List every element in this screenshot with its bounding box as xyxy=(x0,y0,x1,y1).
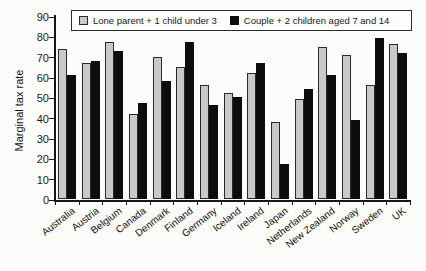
y-axis-tick xyxy=(49,98,54,99)
x-axis-tick xyxy=(268,201,269,205)
bar-belgium-series1 xyxy=(105,42,114,199)
y-axis-tick-label: 30 xyxy=(21,134,49,145)
y-axis-tick xyxy=(49,78,54,79)
y-axis-tick xyxy=(49,200,54,201)
legend-item-lone-parent: Lone parent + 1 child under 3 xyxy=(79,15,217,26)
y-axis-tick-label: 10 xyxy=(21,175,49,186)
legend-swatch-lone-parent xyxy=(79,16,88,25)
x-axis-tick xyxy=(221,201,222,205)
y-axis-tick-label: 20 xyxy=(21,154,49,165)
legend-swatch-couple xyxy=(230,16,239,25)
legend-label-couple: Couple + 2 children aged 7 and 14 xyxy=(244,15,390,26)
bar-chart: Marginal tax rate Lone parent + 1 child … xyxy=(0,0,426,271)
x-axis-line xyxy=(54,200,411,202)
bar-netherlands-series2 xyxy=(304,89,313,199)
bar-australia-series1 xyxy=(58,49,67,199)
bar-iceland-series2 xyxy=(233,97,242,199)
y-axis-tick xyxy=(49,57,54,58)
x-axis-tick xyxy=(102,201,103,205)
y-axis-tick xyxy=(49,139,54,140)
bar-uk-series1 xyxy=(389,44,398,199)
x-axis-tick xyxy=(363,201,364,205)
y-axis-tick-label: 50 xyxy=(21,93,49,104)
bar-germany-series2 xyxy=(209,105,218,199)
x-axis-tick xyxy=(55,201,56,205)
y-axis-tick-label: 40 xyxy=(21,114,49,125)
bar-ireland-series2 xyxy=(256,63,265,199)
y-axis-tick xyxy=(49,17,54,18)
bar-sweden-series1 xyxy=(366,85,375,199)
bar-new-zealand-series1 xyxy=(318,47,327,199)
bar-canada-series1 xyxy=(129,114,138,199)
x-axis-tick xyxy=(126,201,127,205)
bar-australia-series2 xyxy=(67,75,76,199)
bar-netherlands-series1 xyxy=(295,99,304,199)
x-axis-tick xyxy=(150,201,151,205)
bar-norway-series1 xyxy=(342,55,351,199)
bar-ireland-series1 xyxy=(247,73,256,199)
y-axis-tick-label: 0 xyxy=(21,195,49,206)
bar-germany-series1 xyxy=(200,85,209,199)
y-axis-tick-label: 90 xyxy=(21,12,49,23)
x-axis-tick xyxy=(244,201,245,205)
x-axis-tick xyxy=(197,201,198,205)
x-axis-tick xyxy=(410,201,411,205)
y-axis-tick xyxy=(49,118,54,119)
x-axis-tick xyxy=(315,201,316,205)
bar-sweden-series2 xyxy=(375,38,384,199)
bar-new-zealand-series2 xyxy=(327,75,336,199)
legend: Lone parent + 1 child under 3 Couple + 2… xyxy=(71,10,412,31)
y-axis-tick xyxy=(49,37,54,38)
legend-label-lone-parent: Lone parent + 1 child under 3 xyxy=(93,15,217,26)
x-axis-tick xyxy=(386,201,387,205)
x-axis-tick xyxy=(339,201,340,205)
bar-denmark-series1 xyxy=(153,57,162,199)
y-axis-line xyxy=(54,15,56,202)
y-axis-tick-label: 70 xyxy=(21,53,49,64)
bar-austria-series2 xyxy=(91,61,100,199)
y-axis-tick-label: 80 xyxy=(21,32,49,43)
bar-austria-series1 xyxy=(82,63,91,199)
bar-uk-series2 xyxy=(398,53,407,199)
bar-canada-series2 xyxy=(138,103,147,199)
y-axis-tick xyxy=(49,159,54,160)
bar-japan-series2 xyxy=(280,164,289,199)
bar-finland-series1 xyxy=(176,67,185,199)
x-axis-tick xyxy=(292,201,293,205)
x-axis-tick xyxy=(173,201,174,205)
bar-belgium-series2 xyxy=(114,51,123,199)
y-axis-tick xyxy=(49,179,54,180)
bar-norway-series2 xyxy=(351,120,360,199)
bar-japan-series1 xyxy=(271,122,280,199)
bar-finland-series2 xyxy=(185,42,194,199)
legend-item-couple: Couple + 2 children aged 7 and 14 xyxy=(230,15,390,26)
bar-iceland-series1 xyxy=(224,93,233,199)
y-axis-tick-label: 60 xyxy=(21,73,49,84)
x-axis-tick xyxy=(79,201,80,205)
bar-denmark-series2 xyxy=(162,81,171,199)
